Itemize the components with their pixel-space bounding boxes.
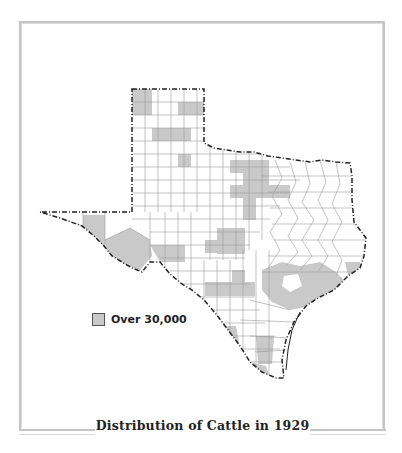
map-legend: Over 30,000 (92, 313, 187, 326)
county-lines (30, 80, 380, 390)
legend-swatch-shaded (92, 313, 105, 326)
legend-label: Over 30,000 (111, 313, 187, 326)
texas-county-map (0, 0, 402, 453)
map-title: Distribution of Cattle in 1929 (95, 418, 310, 433)
